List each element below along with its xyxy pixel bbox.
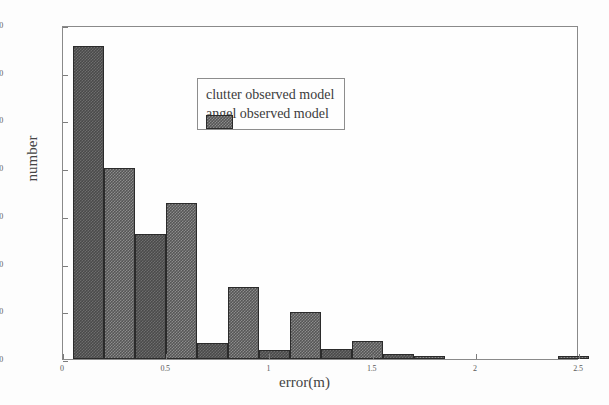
y-axis-title: number	[24, 129, 41, 189]
y-tick-label: 150	[0, 212, 3, 221]
legend: clutter observed model angel observed mo…	[197, 78, 345, 130]
y-tick-mark	[63, 313, 68, 314]
y-tick-mark	[63, 75, 68, 76]
bar-clutter-1	[135, 234, 166, 359]
y-tick-label: 200	[0, 164, 3, 173]
y-tick-mark	[63, 170, 68, 171]
bar-angel-4	[352, 341, 383, 359]
bars-layer	[63, 27, 577, 359]
x-tick-label: 0.5	[160, 364, 169, 373]
x-tick-mark	[476, 354, 477, 359]
y-tick-label: 0	[0, 355, 3, 364]
y-tick-mark	[63, 27, 68, 28]
bar-clutter-4	[321, 349, 352, 359]
x-tick-mark	[63, 354, 64, 359]
y-tick-label: 100	[0, 260, 3, 269]
y-tick-mark	[63, 122, 68, 123]
bar-angel-3	[290, 312, 321, 359]
legend-swatch-icon-angel	[206, 115, 233, 129]
x-tick-label: 2	[473, 364, 477, 373]
bar-angel-5	[414, 356, 445, 359]
bar-angel-6	[558, 356, 589, 359]
x-tick-mark	[166, 354, 167, 359]
y-tick-mark	[63, 218, 68, 219]
bar-clutter-0	[73, 46, 104, 359]
x-tick-label: 0	[60, 364, 64, 373]
y-tick-mark	[63, 361, 68, 362]
y-tick-label: 350	[0, 21, 3, 30]
bar-angel-2	[228, 287, 259, 359]
y-tick-label: 250	[0, 116, 3, 125]
y-tick-label: 300	[0, 69, 3, 78]
y-tick-label: 50	[0, 307, 3, 316]
x-tick-label: 2.5	[573, 364, 582, 373]
x-tick-mark	[269, 354, 270, 359]
x-tick-label: 1	[266, 364, 270, 373]
x-axis-title: error(m)	[0, 374, 609, 391]
x-tick-mark	[579, 354, 580, 359]
x-tick-mark	[373, 354, 374, 359]
legend-item-clutter: clutter observed model	[206, 85, 334, 104]
legend-item-angel: angel observed model	[206, 104, 334, 123]
bar-angel-1	[166, 203, 197, 360]
bar-clutter-5	[383, 354, 414, 359]
bar-clutter-2	[197, 343, 228, 359]
legend-label-clutter: clutter observed model	[206, 87, 334, 103]
figure-canvas: number 050100150200250300350 00.511.522.…	[0, 0, 609, 405]
bar-angel-0	[104, 168, 135, 359]
bar-clutter-3	[259, 350, 290, 359]
plot-area	[62, 26, 578, 360]
x-tick-label: 1.5	[367, 364, 376, 373]
y-tick-mark	[63, 266, 68, 267]
